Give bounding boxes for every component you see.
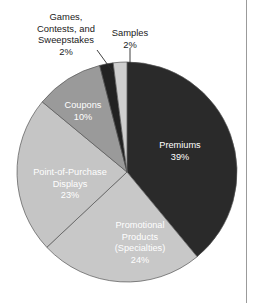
slice-label-line: Premiums [159, 140, 201, 150]
slice-label-line: Samples [112, 27, 149, 38]
slice-label-line: 10% [74, 112, 92, 122]
slice-label-line: Contests, and [37, 23, 95, 34]
chart-page: Premiums39%PromotionalProducts(Specialti… [0, 0, 255, 303]
slice-label-line: Products [122, 232, 159, 242]
slice-label-line: Displays [53, 179, 88, 189]
slice-label-line: (Specialties) [115, 243, 166, 253]
slice-label-line: 2% [123, 39, 137, 50]
slice-label: Samples2% [112, 27, 149, 50]
slice-label-line: Sweepstakes [38, 34, 94, 45]
slice-label-line: Games, [50, 11, 83, 22]
slice-label-line: 2% [59, 46, 73, 57]
slice-label-line: 23% [61, 190, 79, 200]
slice-label-line: Coupons [65, 100, 102, 110]
slice-label: Games,Contests, andSweepstakes2% [37, 11, 95, 57]
slice-label-line: Promotional [115, 220, 164, 230]
slice-label-line: 24% [131, 255, 149, 265]
slice-label-line: Point-of-Purchase [33, 167, 107, 177]
page-border-rule [246, 0, 247, 303]
pie-chart: Premiums39%PromotionalProducts(Specialti… [0, 0, 255, 303]
slice-label-line: 39% [171, 152, 189, 162]
